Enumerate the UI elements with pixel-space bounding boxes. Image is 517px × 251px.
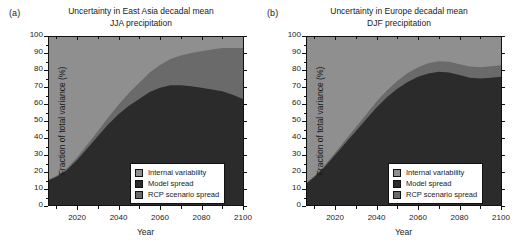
- y-tick-minor: [304, 130, 307, 131]
- legend-item: RCP scenario spread: [393, 189, 477, 200]
- panel-a-title: Uncertainty in East Asia decadal mean JJ…: [34, 6, 248, 29]
- right-axis-line: [501, 36, 502, 206]
- legend-item: RCP scenario spread: [135, 189, 219, 200]
- x-tick-label: 2080: [193, 213, 211, 222]
- top-axis-line: [306, 36, 501, 37]
- x-tick-minor: [480, 206, 481, 209]
- y-tick: [302, 70, 306, 71]
- y-tick-minor: [304, 62, 307, 63]
- legend-label-internal_variability: Internal variability: [148, 169, 206, 177]
- top-axis-line: [48, 36, 243, 37]
- panel-a-y-axis-title: Fraction of total variance (%): [57, 67, 67, 176]
- legend-item: Model spread: [135, 178, 219, 189]
- x-tick-minor: [314, 206, 315, 209]
- legend-swatch-rcp_scenario_spread: [393, 191, 401, 199]
- y-tick: [44, 104, 48, 105]
- y-tick-minor: [46, 164, 49, 165]
- y-tick: [44, 121, 48, 122]
- y-tick-minor: [304, 96, 307, 97]
- y-tick-minor: [304, 181, 307, 182]
- panel-b-y-axis-title: Fraction of total variance (%): [315, 67, 325, 176]
- legend-swatch-model_spread: [393, 180, 401, 188]
- x-tick: [202, 206, 203, 210]
- panel-b-title: Uncertainty in Europe decadal mean DJF p…: [292, 6, 506, 29]
- y-tick: [302, 121, 306, 122]
- y-tick: [44, 70, 48, 71]
- legend-label-rcp_scenario_spread: RCP scenario spread: [148, 191, 219, 199]
- y-tick-minor: [46, 181, 49, 182]
- legend-item: Internal variability: [393, 167, 477, 178]
- y-tick-minor: [46, 79, 49, 80]
- legend-item: Internal variability: [135, 167, 219, 178]
- y-tick: [302, 206, 306, 207]
- x-tick-minor: [356, 206, 357, 209]
- legend-label-internal_variability: Internal variability: [406, 169, 464, 177]
- panel-b-title-line1: Uncertainty in Europe decadal mean: [330, 6, 468, 16]
- x-tick-minor: [98, 206, 99, 209]
- x-tick: [377, 206, 378, 210]
- y-tick: [302, 87, 306, 88]
- y-tick-minor: [304, 79, 307, 80]
- y-tick-minor: [46, 62, 49, 63]
- x-tick: [335, 206, 336, 210]
- x-tick-label: 2040: [368, 213, 386, 222]
- y-tick-minor: [304, 164, 307, 165]
- legend-swatch-internal_variability: [135, 169, 143, 177]
- panel-a-title-line1: Uncertainty in East Asia decadal mean: [68, 6, 214, 16]
- x-tick-minor: [397, 206, 398, 209]
- x-tick-label: 2020: [326, 213, 344, 222]
- x-tick-label: 2100: [234, 213, 252, 222]
- panel-b-letter: (b): [267, 8, 278, 18]
- x-tick-label: 2060: [409, 213, 427, 222]
- x-tick-minor: [139, 206, 140, 209]
- legend-label-model_spread: Model spread: [148, 180, 193, 188]
- legend-label-model_spread: Model spread: [406, 180, 451, 188]
- y-tick: [302, 104, 306, 105]
- y-tick-minor: [304, 198, 307, 199]
- y-tick: [302, 138, 306, 139]
- y-tick-minor: [304, 113, 307, 114]
- panel-a-legend: Internal variabilityModel spreadRCP scen…: [130, 163, 225, 204]
- y-tick-minor: [46, 113, 49, 114]
- y-tick: [44, 87, 48, 88]
- y-tick: [302, 155, 306, 156]
- y-tick-minor: [46, 130, 49, 131]
- y-tick: [44, 155, 48, 156]
- legend-swatch-rcp_scenario_spread: [135, 191, 143, 199]
- y-tick: [302, 172, 306, 173]
- x-tick-label: 2040: [110, 213, 128, 222]
- legend-swatch-model_spread: [135, 180, 143, 188]
- y-tick: [44, 172, 48, 173]
- x-tick-label: 2080: [451, 213, 469, 222]
- y-tick-minor: [46, 147, 49, 148]
- x-tick: [77, 206, 78, 210]
- y-tick: [302, 53, 306, 54]
- panel-a-letter: (a): [9, 8, 20, 18]
- panel-a-x-axis-title: Year: [137, 227, 154, 237]
- y-tick: [44, 138, 48, 139]
- panel-a: (a) Uncertainty in East Asia decadal mea…: [0, 0, 258, 251]
- x-tick: [243, 206, 244, 210]
- y-tick-minor: [46, 198, 49, 199]
- x-tick-label: 2060: [151, 213, 169, 222]
- panel-b-title-line2: DJF precipitation: [292, 18, 506, 30]
- x-tick-label: 2100: [492, 213, 510, 222]
- y-tick-minor: [46, 45, 49, 46]
- figure-uncertainty-partitioning: (a) Uncertainty in East Asia decadal mea…: [0, 0, 517, 251]
- x-tick: [501, 206, 502, 210]
- x-tick: [160, 206, 161, 210]
- x-tick: [460, 206, 461, 210]
- x-tick: [119, 206, 120, 210]
- x-tick: [418, 206, 419, 210]
- y-tick-minor: [304, 147, 307, 148]
- right-axis-line: [243, 36, 244, 206]
- y-tick-minor: [46, 96, 49, 97]
- x-tick-minor: [222, 206, 223, 209]
- y-tick: [44, 53, 48, 54]
- panel-a-plot: 0102030405060708090100202020402060208021…: [48, 36, 243, 206]
- panel-b-plot: 0102030405060708090100202020402060208021…: [306, 36, 501, 206]
- y-tick: [44, 206, 48, 207]
- y-tick-minor: [304, 45, 307, 46]
- legend-item: Model spread: [393, 178, 477, 189]
- x-tick-minor: [56, 206, 57, 209]
